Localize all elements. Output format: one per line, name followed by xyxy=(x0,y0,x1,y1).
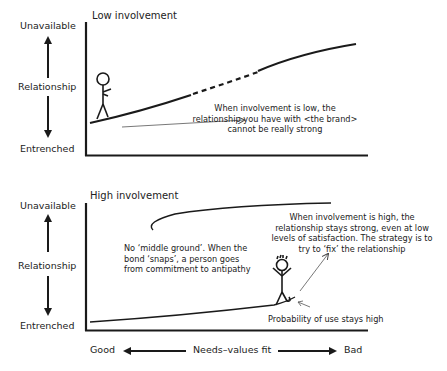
top-annotation: When involvement is low, the relationshi… xyxy=(180,103,370,135)
bottom-chart-title: High involvement xyxy=(90,190,178,201)
bottom-annotation-left: No ‘middle ground’. When the bond ‘snaps… xyxy=(124,243,274,275)
stick-figure-high xyxy=(273,255,291,305)
top-chart xyxy=(48,22,368,156)
x-label-good: Good xyxy=(90,344,115,355)
bottom-y-label-entrenched: Entrenched xyxy=(20,320,74,331)
stick-figure-low xyxy=(97,73,111,119)
bottom-y-label-unavailable: Unavailable xyxy=(20,200,76,211)
top-y-label-unavailable: Unavailable xyxy=(20,20,76,31)
top-chart-title: Low involvement xyxy=(92,10,177,21)
x-label-bad: Bad xyxy=(344,344,362,355)
top-curve-solid-right xyxy=(258,44,356,71)
top-y-label-entrenched: Entrenched xyxy=(20,143,74,154)
bottom-pointer-arrow-strategy xyxy=(300,254,328,291)
bottom-y-label-relationship: Relationship xyxy=(18,260,76,271)
top-curve-dashed xyxy=(193,72,258,94)
bottom-annotation-probability: Probability of use stays high xyxy=(268,314,384,325)
bottom-lower-curve xyxy=(90,297,295,322)
top-y-label-relationship: Relationship xyxy=(18,81,76,92)
bottom-annotation-right: When involvement is high, the relationsh… xyxy=(262,212,442,254)
x-label-needs-values-fit: Needs–values fit xyxy=(193,344,271,355)
